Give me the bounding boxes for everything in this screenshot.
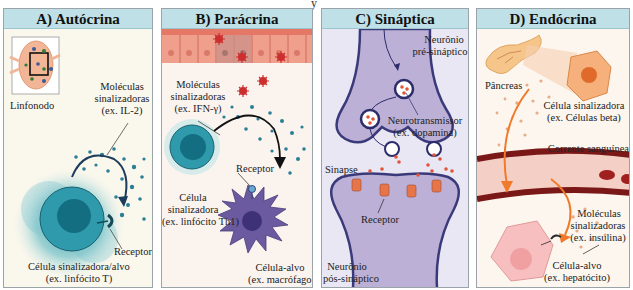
molecules-label-line2: sinalizadoras: [565, 220, 630, 232]
blood-stream-label: Corrente sanguínea: [537, 143, 629, 155]
panel-paracrine: B) Parácrina Moléculas sinalizadoras (ex…: [161, 8, 313, 288]
panel-d-title: D) Endócrina: [477, 9, 629, 29]
epithelium: [162, 29, 313, 63]
molecules-label-line1: Moléculas: [168, 79, 228, 91]
lymph-node-icon: [10, 37, 60, 94]
panel-endocrine: D) Endócrina Pâncreas Célula sinalizador…: [476, 8, 630, 288]
presynaptic-label-line2: pré-sináptico: [410, 46, 469, 58]
cell-label-line1: Célula sinalizadora/alvo: [4, 261, 153, 273]
th1-lymphocyte-cell: [164, 119, 220, 175]
panel-a-title: A) Autócrina: [4, 9, 152, 29]
neurotransmitter-label-line1: Neurotransmissor: [380, 115, 469, 127]
postsynaptic-label-line1: Neurônio: [322, 261, 372, 273]
target-cell-label-line2: (ex. macrófago): [248, 274, 312, 286]
beta-cell-label-line1: Célula sinalizadora: [537, 100, 630, 112]
molecules-label-line1: Moléculas: [92, 81, 152, 93]
signal-cell-label-line3: (ex. linfócito Th1): [162, 216, 224, 228]
target-cell-label-line2: (ex. hepatócito): [535, 272, 619, 284]
receptor-label: Receptor: [236, 163, 274, 175]
target-cell-label-line1: Célula-alvo: [248, 262, 312, 274]
lymph-node-label: Linfonodo: [10, 100, 54, 112]
beta-cell-label-line2: (ex. Células beta): [537, 112, 630, 124]
signal-cell-label-line1: Célula: [162, 192, 224, 204]
molecules-label-line3: (ex. insulina): [565, 232, 630, 244]
molecules-label-line1: Moléculas: [567, 208, 630, 220]
cell-label-line2: (ex. linfócito T): [4, 273, 153, 285]
panel-synaptic: C) Sináptica Neurônio pré-sináptico Neur…: [321, 8, 469, 288]
signal-cell-label-line2: sinalizadora: [162, 204, 224, 216]
synapse-label: Sinapse: [325, 164, 358, 176]
blood-vessel: [477, 151, 630, 199]
receptor-label: Receptor: [350, 214, 410, 226]
molecules-label-line3: (ex. IL-2): [92, 105, 152, 117]
receptor-label: Receptor: [114, 246, 152, 258]
molecules-label-line2: sinalizadoras: [92, 93, 152, 105]
molecules-label-line3: (ex. IFN-γ): [168, 103, 228, 115]
pancreas-label: Pâncreas: [485, 80, 522, 92]
presynaptic-label-line1: Neurônio: [418, 34, 469, 46]
panel-autocrine: A) Autócrina Linfonodo Moléculas sinaliz…: [3, 8, 153, 288]
molecules-label-line2: sinalizadoras: [168, 91, 228, 103]
neurotransmitter-label-line2: (ex. dopamina): [380, 127, 469, 139]
panel-c-title: C) Sináptica: [322, 9, 468, 29]
target-cell-label-line1: Célula-alvo: [539, 260, 615, 272]
panel-b-title: B) Parácrina: [162, 9, 312, 29]
beta-cell: [567, 51, 611, 101]
postsynaptic-label-line2: pós-sináptico: [322, 273, 380, 285]
paracrine-illustration: [162, 9, 313, 288]
